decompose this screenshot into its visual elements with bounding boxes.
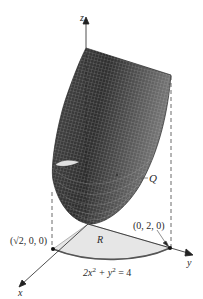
surface-diagram — [0, 0, 203, 299]
x-intercept-label: (√2, 0, 0) — [10, 236, 47, 246]
y-axis-arrow-icon — [185, 249, 193, 256]
z-axis-label: z — [80, 13, 84, 23]
point-y-intercept — [168, 246, 172, 250]
point-x-intercept — [51, 247, 55, 251]
region-label: R — [97, 235, 103, 245]
x-axis-label: x — [18, 288, 22, 298]
surface-q — [40, 40, 180, 230]
y-intercept-label: (0, 2, 0) — [133, 221, 165, 231]
boundary-equation: 2x2 + y2 = 4 — [83, 267, 131, 278]
y-axis-label: y — [187, 258, 191, 268]
surface-label: Q — [149, 173, 157, 184]
